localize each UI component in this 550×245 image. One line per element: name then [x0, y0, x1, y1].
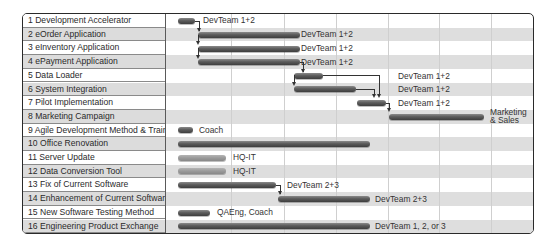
task-row-6[interactable]: 6 System Integration	[23, 83, 533, 97]
task-label: 15 New Software Testing Method	[23, 206, 165, 220]
resource-label: DevTeam 1+2	[398, 99, 450, 108]
resource-label: DevTeam 2+3	[375, 195, 427, 204]
task-label: 9 Agile Development Method & Training	[23, 124, 165, 138]
task-label: 12 Data Conversion Tool	[23, 165, 165, 179]
arrow-icon	[292, 82, 296, 86]
arrow-icon	[196, 41, 200, 45]
task-label: 11 Server Update	[23, 151, 165, 165]
task-row-7[interactable]: 7 Pilot Implementation	[23, 96, 533, 110]
task-bar-16[interactable]	[178, 223, 370, 229]
task-row-1[interactable]: 1 Development Accelerator	[23, 14, 533, 28]
resource-label: HQ-IT	[233, 167, 256, 176]
task-label: 5 Data Loader	[23, 69, 165, 83]
task-label: 16 Engineering Product Exchange	[23, 220, 165, 234]
task-label: 8 Marketing Campaign	[23, 110, 165, 124]
task-bar-14[interactable]	[278, 196, 370, 202]
task-bar-6[interactable]	[294, 86, 356, 92]
resource-label: DevTeam 1+2	[301, 30, 353, 39]
task-bar-13[interactable]	[178, 182, 276, 188]
task-bar-15[interactable]	[178, 210, 210, 216]
task-bar-12[interactable]	[178, 168, 226, 174]
resource-label: DevTeam 1+2	[398, 85, 450, 94]
resource-label: DevTeam 1+2	[301, 58, 353, 67]
task-row-9[interactable]: 9 Agile Development Method & Training	[23, 124, 533, 138]
task-bar-4[interactable]	[198, 59, 300, 65]
gridline	[439, 14, 440, 233]
task-row-5[interactable]: 5 Data Loader	[23, 69, 533, 83]
resource-label: DevTeam 1+2	[301, 44, 353, 53]
task-bar-7[interactable]	[357, 100, 386, 106]
task-bar-11[interactable]	[178, 155, 226, 161]
task-label: 3 eInventory Application	[23, 41, 165, 55]
task-row-15[interactable]: 15 New Software Testing Method	[23, 206, 533, 220]
column-divider	[165, 14, 166, 233]
task-row-11[interactable]: 11 Server Update	[23, 151, 533, 165]
arrow-icon	[196, 55, 200, 59]
resource-label: HQ-IT	[233, 153, 256, 162]
task-label: 13 Fix of Current Software	[23, 178, 165, 192]
task-bar-9[interactable]	[178, 127, 193, 133]
task-label: 2 eOrder Application	[23, 28, 165, 42]
task-bar-1[interactable]	[178, 18, 195, 24]
resource-label: DevTeam 2+3	[287, 181, 339, 190]
arrow-icon	[278, 191, 282, 195]
task-label: 4 ePayment Application	[23, 55, 165, 69]
task-row-12[interactable]: 12 Data Conversion Tool	[23, 165, 533, 179]
task-bar-10[interactable]	[178, 141, 370, 147]
resource-label-line2: & Sales	[490, 116, 519, 125]
task-bar-8[interactable]	[389, 114, 484, 120]
task-label: 7 Pilot Implementation	[23, 96, 165, 110]
resource-label: DevTeam 1+2	[203, 16, 255, 25]
task-label: 6 System Integration	[23, 83, 165, 97]
resource-label: QAEng, Coach	[217, 208, 273, 217]
arrow-icon	[377, 94, 381, 98]
task-label: 1 Development Accelerator	[23, 14, 165, 28]
resource-label: DevTeam 1+2	[398, 72, 450, 81]
arrow-icon	[372, 94, 376, 98]
resource-label: Coach	[199, 126, 223, 135]
task-bar-3[interactable]	[198, 46, 300, 52]
task-label: 10 Office Renovation	[23, 137, 165, 151]
gantt-chart: 1 Development Accelerator 2 eOrder Appli…	[22, 13, 534, 234]
arrow-icon	[387, 108, 391, 112]
task-bar-2[interactable]	[198, 32, 300, 38]
task-bar-5[interactable]	[294, 73, 323, 79]
resource-label: DevTeam 1, 2, or 3	[375, 222, 446, 231]
task-label: 14 Enhancement of Current Software	[23, 192, 165, 206]
